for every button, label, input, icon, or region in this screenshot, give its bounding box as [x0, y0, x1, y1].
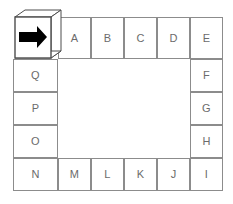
board-cell-label: A [71, 32, 79, 43]
board-cell-label: I [205, 169, 208, 180]
board-cell-o[interactable]: O [13, 125, 58, 158]
board-cell-e[interactable]: E [190, 17, 223, 59]
board-cell-label: Q [31, 70, 40, 81]
board-interior [58, 59, 190, 158]
board-cell-d[interactable]: D [157, 17, 190, 59]
board-cell-label: M [70, 169, 79, 180]
board-cell-h[interactable]: H [190, 125, 223, 158]
board-cell-b[interactable]: B [91, 17, 124, 59]
board-cell-q[interactable]: Q [13, 59, 58, 92]
board-cell-f[interactable]: F [190, 59, 223, 92]
board-cell-c[interactable]: C [124, 17, 157, 59]
board-cell-label: H [202, 136, 210, 147]
board-cell-j[interactable]: J [157, 158, 190, 191]
board-cell-p[interactable]: P [13, 92, 58, 125]
board-cell-a[interactable]: A [58, 17, 91, 59]
board-cell-label: D [169, 32, 177, 43]
board-cell-g[interactable]: G [190, 92, 223, 125]
board-cell-label: B [104, 32, 112, 43]
board-cell-label: E [203, 32, 211, 43]
board-diagram: ABCDEFGHIJKLMNOPQ [0, 0, 233, 204]
board-cell-l[interactable]: L [91, 158, 124, 191]
board-cell-n[interactable]: N [13, 158, 58, 191]
isometric-cube-icon [12, 9, 62, 61]
board-cell-label: F [203, 70, 210, 81]
board-cell-label: K [137, 169, 145, 180]
board-cell-label: O [31, 136, 40, 147]
board-cell-label: C [136, 32, 144, 43]
board-cell-label: P [32, 103, 40, 114]
board-cell-i[interactable]: I [190, 158, 223, 191]
board-cell-m[interactable]: M [58, 158, 91, 191]
board-cell-label: J [171, 169, 177, 180]
board-cell-label: G [202, 103, 211, 114]
board-cell-k[interactable]: K [124, 158, 157, 191]
board-cell-label: L [104, 169, 110, 180]
board-cell-label: N [31, 169, 39, 180]
start-arrow-box[interactable] [12, 9, 62, 61]
